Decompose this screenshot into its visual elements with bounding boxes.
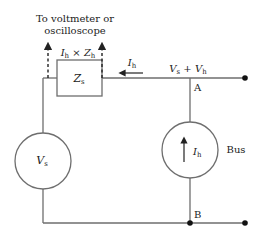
current-label: Ih: [127, 57, 137, 70]
node-B-label: B: [194, 209, 201, 220]
measurement-label-line1: To voltmeter or: [36, 13, 114, 24]
node-bottom-right: [242, 220, 248, 226]
measurement-label-line2: oscilloscope: [44, 25, 106, 36]
harmonic-current-source-circle: [162, 122, 218, 178]
node-B: [187, 220, 193, 226]
bus-label: Bus: [227, 144, 246, 155]
node-top-right: [242, 75, 248, 81]
circuit-diagram: To voltmeter or oscilloscope Ih × Zh Zs …: [0, 0, 264, 239]
bus-voltage-label: Vs + Vh: [169, 63, 207, 76]
voltage-drop-label: Ih × Zh: [60, 47, 96, 60]
node-A-label: A: [193, 82, 202, 93]
